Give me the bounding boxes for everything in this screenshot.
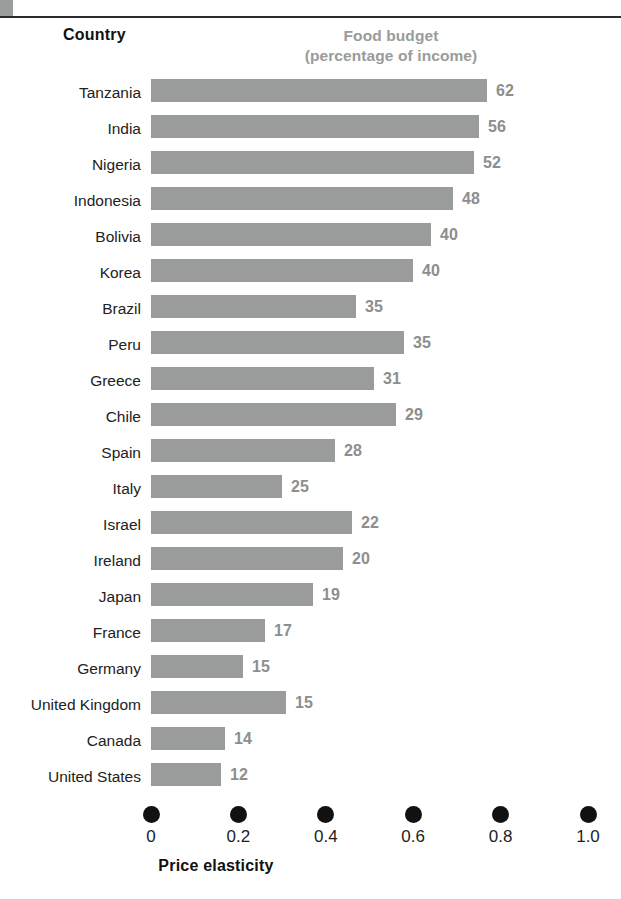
chart-row: Canada14 [0,726,621,762]
chart-row: Tanzania62 [0,78,621,114]
food-budget-header-line1: Food budget [344,27,439,44]
country-label: Indonesia [0,190,141,212]
bar [151,691,286,714]
bar [151,403,396,426]
bar-value-label: 40 [422,260,440,281]
bar [151,331,404,354]
chart-header: Country Food budget (percentage of incom… [0,26,621,74]
chart-row: United States12 [0,762,621,798]
bar [151,547,343,570]
food-budget-header-line2: (percentage of income) [241,46,541,66]
chart-row: Japan19 [0,582,621,618]
country-label: United Kingdom [0,694,141,716]
chart-row: France17 [0,618,621,654]
axis-tick-dot [405,806,422,823]
bar-value-label: 62 [496,80,514,101]
bar [151,583,313,606]
bar [151,151,474,174]
bar-value-label: 31 [383,368,401,389]
bar [151,439,335,462]
bar-value-label: 25 [291,476,309,497]
chart-row: Ireland20 [0,546,621,582]
country-label: Germany [0,658,141,680]
bar [151,475,282,498]
bar-value-label: 29 [405,404,423,425]
bar-value-label: 22 [361,512,379,533]
country-label: India [0,118,141,140]
bar-value-label: 35 [365,296,383,317]
country-label: United States [0,766,141,788]
country-label: France [0,622,141,644]
chart-row: Chile29 [0,402,621,438]
axis-tick-label: 0.6 [378,827,448,847]
bar [151,367,374,390]
chart-row: Spain28 [0,438,621,474]
country-column-header: Country [63,26,126,44]
bar-value-label: 40 [440,224,458,245]
bar [151,115,479,138]
bar [151,259,413,282]
bar-value-label: 52 [483,152,501,173]
country-label: Spain [0,442,141,464]
bar [151,763,221,786]
bar-value-label: 17 [274,620,292,641]
bar [151,727,225,750]
bar-value-label: 15 [252,656,270,677]
axis-tick-dot [580,806,597,823]
country-label: Korea [0,262,141,284]
axis-tick-label: 0.8 [466,827,536,847]
country-label: Bolivia [0,226,141,248]
chart-row: Greece31 [0,366,621,402]
bar [151,223,431,246]
axis-tick-dot [492,806,509,823]
bar [151,619,265,642]
chart-row: United Kingdom15 [0,690,621,726]
bar-value-label: 12 [230,764,248,785]
bar-value-label: 20 [352,548,370,569]
bar-value-label: 28 [344,440,362,461]
axis-tick-label: 0 [116,827,186,847]
chart-row: Israel22 [0,510,621,546]
bar-value-label: 19 [322,584,340,605]
bar-chart-plot-area: Tanzania62India56Nigeria52Indonesia48Bol… [0,78,621,800]
axis-tick-dot [317,806,334,823]
chart-row: Korea40 [0,258,621,294]
chart-row: Bolivia40 [0,222,621,258]
country-label: Nigeria [0,154,141,176]
bar-value-label: 15 [295,692,313,713]
country-label: Greece [0,370,141,392]
axis-tick-dot [143,806,160,823]
bar [151,187,453,210]
bar [151,511,352,534]
country-label: Canada [0,730,141,752]
page-corner-marker [0,0,13,16]
chart-row: Brazil35 [0,294,621,330]
axis-tick-label: 0.2 [203,827,273,847]
chart-row: Indonesia48 [0,186,621,222]
country-label: Japan [0,586,141,608]
bar-value-label: 35 [413,332,431,353]
food-budget-column-header: Food budget (percentage of income) [241,26,541,66]
bar [151,295,356,318]
chart-row: Italy25 [0,474,621,510]
axis-tick-label: 0.4 [291,827,361,847]
chart-row: Peru35 [0,330,621,366]
country-label: Ireland [0,550,141,572]
axis-tick-dot [230,806,247,823]
bar-value-label: 48 [462,188,480,209]
country-label: Tanzania [0,82,141,104]
chart-row: India56 [0,114,621,150]
x-axis-title: Price elasticity [116,857,316,875]
bar [151,655,243,678]
country-label: Brazil [0,298,141,320]
bar [151,79,487,102]
country-label: Peru [0,334,141,356]
header-divider-rule [0,16,621,18]
bar-value-label: 56 [488,116,506,137]
country-label: Chile [0,406,141,428]
axis-tick-label: 1.0 [553,827,621,847]
bar-value-label: 14 [234,728,252,749]
country-label: Italy [0,478,141,500]
chart-row: Nigeria52 [0,150,621,186]
x-axis: Price elasticity 00.20.40.60.81.0 [0,806,621,899]
